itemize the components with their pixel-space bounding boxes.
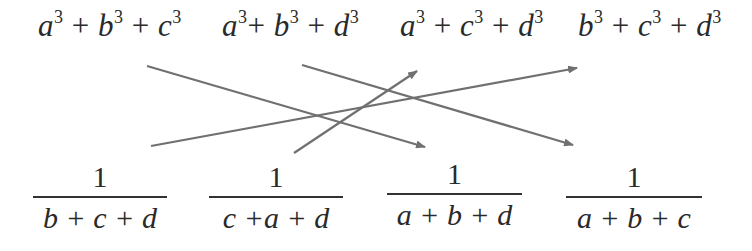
arrow-cad-fraction-to-acd: [294, 71, 417, 153]
denominator: b + c + d: [33, 198, 167, 238]
denominator: c +a + d: [209, 198, 343, 238]
numerator: 1: [33, 160, 167, 194]
numerator: 1: [209, 160, 343, 194]
denominator: a + b + c: [566, 198, 702, 238]
arrow-abc-to-abd-fraction: [147, 66, 425, 147]
denominator: a + b + d: [387, 195, 522, 235]
fraction-abd: 1 a + b + d: [387, 157, 522, 235]
numerator: 1: [387, 157, 522, 191]
fraction-abc: 1 a + b + c: [566, 160, 702, 238]
fraction-cad: 1 c +a + d: [209, 160, 343, 238]
fraction-bcd: 1 b + c + d: [33, 160, 167, 238]
numerator: 1: [566, 160, 702, 194]
